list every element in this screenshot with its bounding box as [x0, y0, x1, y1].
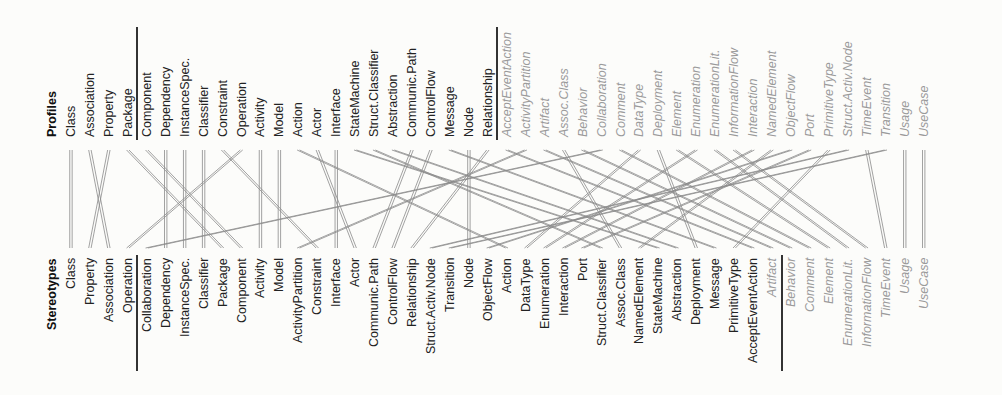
label: Usage: [898, 101, 912, 137]
profiles-stereotypes-diagram: ProfilesClassAssociationPropertyPackageC…: [0, 0, 1002, 395]
label: Message: [708, 258, 722, 309]
connection-line: [584, 150, 811, 248]
label: DataType: [632, 84, 646, 137]
label: Interaction: [746, 79, 760, 137]
label: Model: [272, 103, 286, 137]
connection-line: [432, 150, 849, 248]
label: UseCase: [917, 86, 931, 137]
label: Struct.Classifier: [595, 258, 609, 346]
label: Element: [670, 91, 684, 137]
label: Collaboration: [140, 258, 154, 332]
label: Abstraction: [386, 74, 400, 137]
label: Communic.Path: [405, 48, 419, 137]
label: InformationFlow: [727, 48, 741, 137]
connection-line: [868, 150, 887, 248]
label: PrimitiveType: [727, 258, 741, 333]
label: Usage: [898, 258, 912, 294]
label: Transition: [879, 83, 893, 137]
connection-line: [221, 150, 316, 248]
label: Classifier: [197, 86, 211, 137]
label: NamedElement: [765, 51, 779, 137]
label: Actor: [348, 258, 362, 287]
label: DataType: [519, 258, 533, 312]
label: Behavior: [784, 258, 798, 307]
label: TimeEvent: [879, 258, 893, 318]
label: Dependency: [159, 67, 173, 137]
connection-line: [735, 150, 868, 248]
label: Behavior: [576, 88, 590, 137]
label: Activity: [253, 97, 267, 137]
label: Interface: [329, 258, 343, 307]
label: Package: [216, 258, 230, 307]
label: Struct.Activ.Node: [841, 41, 855, 137]
label: Port: [576, 258, 590, 281]
connection-line: [508, 150, 754, 248]
label: Classifier: [197, 258, 211, 309]
label: Component: [235, 258, 249, 323]
connection-line: [373, 150, 411, 248]
label: Struct.Activ.Node: [424, 258, 438, 354]
label: Action: [500, 258, 514, 293]
label: Assoc.Class: [614, 258, 628, 327]
connection-line: [148, 150, 243, 248]
label: Transition: [443, 258, 457, 312]
label: Interface: [329, 88, 343, 137]
label: Action: [291, 102, 305, 137]
connection-line: [354, 150, 657, 248]
label: Relationship: [405, 258, 419, 327]
label: Association: [83, 73, 97, 137]
label: Constraint: [216, 80, 230, 137]
label: UseCase: [917, 258, 931, 309]
connection-line: [127, 150, 222, 248]
connection-line: [224, 150, 319, 248]
label: ObjectFlow: [481, 258, 495, 321]
label: Assoc.Class: [557, 68, 571, 137]
label: Operation: [121, 258, 135, 313]
label: Enumeration: [689, 66, 703, 137]
label: NamedElement: [632, 258, 646, 344]
connection-line: [679, 150, 831, 248]
label: Deployment: [651, 70, 665, 137]
label: Port: [803, 114, 817, 137]
profiles-header: Profiles: [45, 91, 59, 137]
connection-line: [676, 150, 828, 248]
label: Communic.Path: [367, 258, 381, 347]
label: Package: [121, 88, 135, 137]
label: ControlFlow: [424, 70, 438, 137]
label: Message: [443, 86, 457, 137]
label: Property: [83, 258, 97, 305]
label: ActivityPartition: [291, 258, 305, 343]
connection-line: [375, 150, 413, 248]
label: Component: [140, 72, 154, 137]
label: StateMachine: [348, 61, 362, 137]
label: Interaction: [557, 258, 571, 316]
label: Dependency: [159, 258, 173, 328]
label: InstanceSpec.: [178, 258, 192, 337]
label: ControlFlow: [386, 258, 400, 325]
connection-line: [451, 150, 887, 248]
label: EnumerationLit.: [708, 49, 722, 137]
group-separator: [136, 255, 138, 371]
label: ObjectFlow: [784, 74, 798, 137]
label: InformationFlow: [860, 258, 874, 347]
label: Association: [102, 258, 116, 322]
label: Class: [64, 258, 78, 289]
label: EnumerationLit.: [841, 258, 855, 346]
label: Actor: [310, 108, 324, 137]
label: PrimitiveType: [822, 62, 836, 137]
label: Activity: [253, 258, 267, 298]
connection-line: [413, 150, 489, 248]
connection-line: [866, 150, 885, 248]
label: AcceptEventAction: [746, 258, 760, 363]
label: Struct.Classifier: [367, 49, 381, 137]
label: StateMachine: [651, 258, 665, 334]
connection-line: [449, 150, 885, 248]
label: Class: [64, 106, 78, 137]
label: TimeEvent: [860, 77, 874, 137]
label: InstanceSpec.: [178, 58, 192, 137]
label: Artifact: [538, 98, 552, 137]
label: Relationship: [481, 68, 495, 137]
label: Operation: [235, 82, 249, 137]
label: AcceptEventAction: [500, 32, 514, 137]
connection-line: [411, 150, 487, 248]
